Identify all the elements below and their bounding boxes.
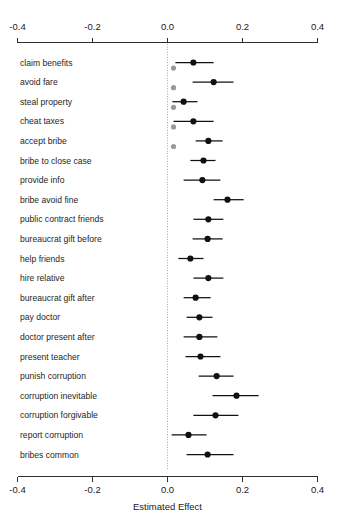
secondary-estimate-point <box>171 66 176 71</box>
point-estimate-marker <box>205 236 211 242</box>
bottom-xtick-label-2: 0.0 <box>161 484 174 495</box>
table-row: bureaucrat gift before <box>20 234 223 244</box>
forest-plot: -0.4 -0.2 0.0 0.2 0.4 claim benefitsavoi… <box>0 0 340 526</box>
point-estimate-marker <box>200 157 206 163</box>
table-row: pay doctor <box>20 312 213 322</box>
point-estimate-marker <box>190 59 196 65</box>
secondary-estimate-point <box>171 124 176 129</box>
table-row: present teacher <box>20 352 220 362</box>
table-row: help friends <box>20 254 204 264</box>
row-label: claim benefits <box>20 58 73 68</box>
row-label: public contract friends <box>20 214 104 224</box>
table-row: report corruption <box>20 430 207 440</box>
point-estimate-marker <box>181 99 187 105</box>
secondary-estimate-point <box>171 144 176 149</box>
top-xtick-label-4: 0.4 <box>311 21 324 32</box>
table-row: claim benefits <box>20 58 214 71</box>
bottom-xtick-label-4: 0.4 <box>311 484 324 495</box>
top-xtick-label-3: 0.2 <box>236 21 249 32</box>
bottom-axis-ticks <box>18 477 318 482</box>
top-axis: -0.4 -0.2 0.0 0.2 0.4 <box>9 21 324 43</box>
point-estimate-marker <box>212 412 218 418</box>
row-label: avoid fare <box>20 77 58 87</box>
row-label: corruption forgivable <box>20 410 98 420</box>
point-estimate-marker <box>196 314 202 320</box>
row-label: bribe avoid fine <box>20 195 79 205</box>
point-estimate-marker <box>190 118 196 124</box>
secondary-estimate-point <box>171 105 176 110</box>
table-row: accept bribe <box>20 136 223 149</box>
row-label: bribes common <box>20 450 79 460</box>
secondary-estimate-point <box>171 85 176 90</box>
row-label: bureaucrat gift after <box>20 293 95 303</box>
point-estimate-marker <box>187 255 193 261</box>
top-xtick-label-0: -0.4 <box>9 21 25 32</box>
table-row: cheat taxes <box>20 116 214 129</box>
point-estimate-marker <box>185 432 191 438</box>
top-axis-ticks <box>18 38 318 43</box>
row-label: present teacher <box>20 352 80 362</box>
point-estimate-marker <box>211 79 217 85</box>
row-label: pay doctor <box>20 312 60 322</box>
table-row: doctor present after <box>20 332 217 342</box>
point-estimate-marker <box>205 216 211 222</box>
table-row: corruption inevitable <box>20 391 259 401</box>
point-estimate-marker <box>224 197 230 203</box>
row-label: report corruption <box>20 430 83 440</box>
point-estimate-marker <box>205 275 211 281</box>
point-estimate-marker <box>205 451 211 457</box>
table-row: bureaucrat gift after <box>20 293 211 303</box>
table-row: public contract friends <box>20 214 223 224</box>
bottom-xtick-label-3: 0.2 <box>236 484 249 495</box>
table-row: steal property <box>20 97 198 110</box>
x-axis-title: Estimated Effect <box>133 501 202 512</box>
bottom-xtick-label-0: -0.4 <box>9 484 25 495</box>
row-label: bureaucrat gift before <box>20 234 102 244</box>
table-row: corruption forgivable <box>20 410 238 420</box>
point-estimate-marker <box>233 393 239 399</box>
bottom-axis: -0.4 -0.2 0.0 0.2 0.4 Estimated Effect <box>9 477 324 513</box>
row-label: bribe to close case <box>20 156 92 166</box>
table-row: bribe to close case <box>20 156 216 166</box>
table-row: bribes common <box>20 450 234 460</box>
table-row: punish corruption <box>20 371 234 381</box>
point-estimate-marker <box>205 138 211 144</box>
table-row: avoid fare <box>20 77 234 90</box>
row-label: doctor present after <box>20 332 95 342</box>
point-estimate-marker <box>196 334 202 340</box>
top-xtick-label-2: 0.0 <box>161 21 174 32</box>
row-label: accept bribe <box>20 136 67 146</box>
table-row: bribe avoid fine <box>20 195 244 205</box>
data-rows-group: claim benefitsavoid faresteal propertych… <box>20 58 259 460</box>
row-label: provide info <box>20 175 65 185</box>
point-estimate-marker <box>199 177 205 183</box>
row-label: cheat taxes <box>20 116 64 126</box>
row-label: punish corruption <box>20 371 86 381</box>
point-estimate-marker <box>214 373 220 379</box>
row-label: hire relative <box>20 273 65 283</box>
table-row: hire relative <box>20 273 223 283</box>
row-label: steal property <box>20 97 73 107</box>
bottom-xtick-label-1: -0.2 <box>84 484 100 495</box>
table-row: provide info <box>20 175 220 185</box>
point-estimate-marker <box>197 353 203 359</box>
point-estimate-marker <box>193 295 199 301</box>
row-label: corruption inevitable <box>20 391 97 401</box>
row-label: help friends <box>20 254 64 264</box>
top-xtick-label-1: -0.2 <box>84 21 100 32</box>
